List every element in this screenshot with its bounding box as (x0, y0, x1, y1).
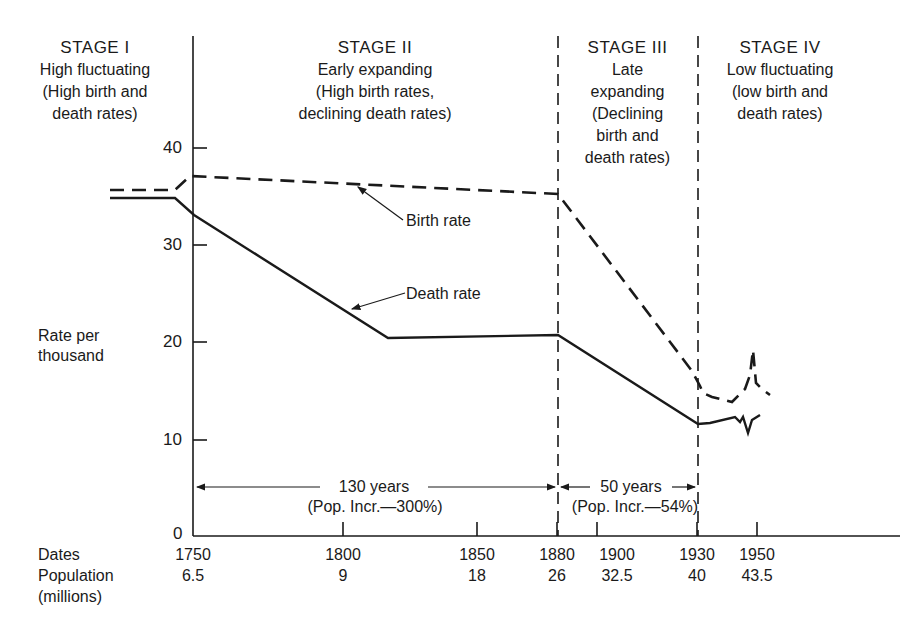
date-1950: 1950 (732, 545, 782, 565)
pop-1750: 6.5 (168, 566, 218, 586)
y-tick-40: 40 (163, 138, 182, 158)
span1-pop: (Pop. Incr.—300%) (270, 497, 480, 517)
chart-plot (0, 0, 905, 635)
y-tick-30: 30 (163, 235, 182, 255)
population-label: Population (38, 566, 114, 586)
birth-rate-label: Birth rate (406, 211, 471, 231)
y-tick-0: 0 (173, 524, 182, 544)
pop-1800: 9 (318, 566, 368, 586)
y-axis-label-line-2: thousand (38, 346, 104, 366)
date-1800: 1800 (318, 545, 368, 565)
x-axis (193, 522, 900, 536)
pop-1950: 43.5 (732, 566, 782, 586)
date-1880: 1880 (532, 545, 582, 565)
dates-label: Dates (38, 545, 80, 565)
death-rate-pointer (352, 293, 405, 309)
pop-1850: 18 (452, 566, 502, 586)
birth-rate-pointer (358, 187, 403, 220)
population-unit: (millions) (38, 587, 102, 607)
y-axis (193, 36, 207, 536)
death-rate-line (110, 198, 760, 433)
span1-years: 130 years (320, 477, 428, 497)
pop-1930: 40 (672, 566, 722, 586)
date-1900: 1900 (592, 545, 642, 565)
y-tick-20: 20 (163, 332, 182, 352)
span2-pop: (Pop. Incr.—54%) (550, 497, 720, 517)
death-rate-label: Death rate (406, 284, 481, 304)
date-1750: 1750 (168, 545, 218, 565)
span2-years: 50 years (590, 477, 672, 497)
pop-1880: 26 (532, 566, 582, 586)
pop-1900: 32.5 (592, 566, 642, 586)
date-1850: 1850 (452, 545, 502, 565)
y-axis-label-line-1: Rate per (38, 326, 99, 346)
y-tick-10: 10 (163, 430, 182, 450)
date-1930: 1930 (672, 545, 722, 565)
stage-boundaries (558, 36, 698, 536)
